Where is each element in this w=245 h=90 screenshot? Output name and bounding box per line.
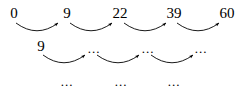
ellipsis-marker: ...: [61, 75, 74, 88]
curved-arrow: [16, 23, 58, 31]
arrow-sequence-diagram: 092239609..................: [0, 0, 245, 90]
ellipsis-marker: ...: [88, 42, 101, 55]
value-label: 9: [63, 6, 71, 21]
value-label: 0: [10, 6, 18, 21]
curved-arrow: [177, 23, 219, 31]
curved-arrow: [43, 55, 85, 63]
ellipsis-marker: ...: [115, 75, 128, 88]
ellipsis-marker: ...: [168, 75, 181, 88]
value-label: 22: [113, 6, 128, 21]
curved-arrow: [124, 23, 166, 31]
arrow-paths: [16, 23, 219, 63]
curved-arrow: [151, 55, 193, 63]
curved-arrow: [97, 55, 139, 63]
ellipsis-marker: ...: [142, 42, 155, 55]
value-label: 39: [167, 6, 182, 21]
ellipsis-marker: ...: [195, 42, 208, 55]
curved-arrow: [70, 23, 112, 31]
value-label: 9: [37, 39, 45, 54]
value-label: 60: [220, 6, 235, 21]
